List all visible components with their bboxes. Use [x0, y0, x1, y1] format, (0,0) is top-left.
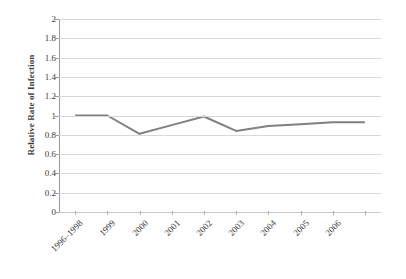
y-tick-label: 0.6 — [30, 150, 56, 159]
y-tick-mark — [55, 96, 59, 97]
gridline — [59, 154, 381, 155]
y-tick-mark — [55, 173, 59, 174]
gridline — [59, 96, 381, 97]
y-tick-label: 1.2 — [30, 92, 56, 101]
y-tick-mark — [55, 19, 59, 20]
y-tick-label: 1.6 — [30, 53, 56, 62]
plot-area — [59, 19, 381, 212]
y-tick-label: 0 — [30, 208, 56, 217]
y-axis-tick-labels: 21.81.61.41.210.80.60.40.20 — [30, 19, 56, 212]
x-tick-label: 2001 — [162, 218, 182, 238]
gridline — [59, 77, 381, 78]
x-tick-label: 2004 — [259, 218, 279, 238]
y-tick-label: 1 — [30, 111, 56, 120]
gridline — [59, 135, 381, 136]
y-tick-label: 1.4 — [30, 72, 56, 81]
x-tick-label: 2000 — [130, 218, 150, 238]
gridline — [59, 19, 381, 20]
x-tick-label: 2006 — [323, 218, 343, 238]
gridline — [59, 173, 381, 174]
infection-rate-line-chart: Relative Rate of Infection 21.81.61.41.2… — [0, 0, 406, 279]
y-tick-label: 0.2 — [30, 188, 56, 197]
y-tick-label: 0.8 — [30, 130, 56, 139]
y-tick-label: 1.8 — [30, 34, 56, 43]
x-tick-label: 2003 — [226, 218, 246, 238]
y-tick-mark — [55, 212, 59, 213]
series-polyline — [75, 116, 365, 134]
y-tick-mark — [55, 116, 59, 117]
x-axis-tick-labels: 1996–19981999200020012002200320042005200… — [59, 214, 381, 274]
y-tick-mark — [55, 135, 59, 136]
gridline — [59, 193, 381, 194]
y-tick-mark — [55, 77, 59, 78]
y-tick-mark — [55, 154, 59, 155]
x-tick-label: 2002 — [194, 218, 214, 238]
y-tick-mark — [55, 38, 59, 39]
y-tick-mark — [55, 58, 59, 59]
y-tick-label: 2 — [30, 15, 56, 24]
gridline — [59, 38, 381, 39]
x-tick-label: 2005 — [291, 218, 311, 238]
gridline — [59, 116, 381, 117]
x-tick-label: 1999 — [98, 218, 118, 238]
y-tick-label: 0.4 — [30, 169, 56, 178]
y-tick-mark — [55, 193, 59, 194]
gridline — [59, 58, 381, 59]
x-tick-label: 1996–1998 — [49, 218, 85, 254]
